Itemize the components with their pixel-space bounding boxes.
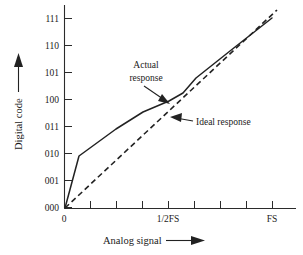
actual-response-label-line2: response xyxy=(129,73,162,83)
axes-group xyxy=(65,5,297,209)
actual-response-arrowhead xyxy=(158,94,170,104)
y-tick-label: 101 xyxy=(45,68,60,78)
y-axis-ticks xyxy=(65,19,73,208)
y-tick-label: 001 xyxy=(45,176,60,186)
actual-response-label-line1: Actual xyxy=(133,60,159,70)
actual-response-curve xyxy=(65,18,272,208)
up-arrow-icon xyxy=(14,53,23,67)
actual-response-annotation: Actual response xyxy=(129,60,170,104)
y-tick-label: 100 xyxy=(45,95,60,105)
y-axis-tick-labels: 111 110 101 100 011 010 001 000 xyxy=(45,14,60,213)
right-arrow-icon xyxy=(191,236,205,245)
y-axis-title: Digital code xyxy=(13,98,24,150)
x-axis-tick-labels: 0 1/2FS FS xyxy=(62,214,278,224)
x-axis-title: Analog signal xyxy=(103,235,162,246)
x-tick-label: 0 xyxy=(62,214,67,224)
y-tick-label: 111 xyxy=(45,14,59,24)
chart-canvas: 111 110 101 100 011 010 001 000 0 1 xyxy=(0,0,303,255)
y-tick-label: 010 xyxy=(45,149,60,159)
adc-transfer-function-figure: 111 110 101 100 011 010 001 000 0 1 xyxy=(0,0,303,255)
ideal-response-label: Ideal response xyxy=(196,117,251,127)
ideal-response-arrowhead xyxy=(170,113,182,122)
y-tick-label: 000 xyxy=(45,203,60,213)
x-tick-label: 1/2FS xyxy=(157,214,180,224)
x-axis-title-group: Analog signal xyxy=(103,235,205,246)
y-axis-title-group: Digital code xyxy=(13,53,24,150)
y-tick-label: 011 xyxy=(45,122,59,132)
y-tick-label: 110 xyxy=(45,41,59,51)
x-axis-ticks xyxy=(65,201,273,209)
x-tick-label: FS xyxy=(267,214,278,224)
ideal-response-annotation: Ideal response xyxy=(170,113,251,127)
